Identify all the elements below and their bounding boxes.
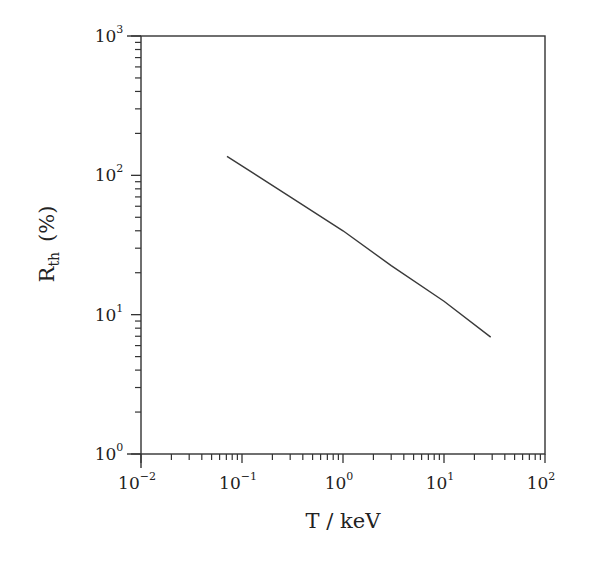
x-tick-label: 10−1 [219,470,257,493]
plot-frame [141,36,545,454]
x-tick-label: 10−2 [118,470,156,493]
x-axis-title: T / keV [306,509,382,533]
y-axis-title-unit: (%) [35,206,59,242]
x-tick-label: 100 [325,470,354,493]
svg-text:Rth(%): Rth(%) [35,206,62,283]
y-axis-title: Rth(%) [35,206,62,283]
x-tick-label: 102 [527,470,556,493]
series-line [227,156,491,337]
axis-ticks [131,36,545,463]
data-series [227,156,491,337]
y-tick-label: 103 [95,23,124,46]
y-tick-label: 100 [95,441,124,464]
y-axis-title-main: R [35,265,59,282]
y-axis-title-sub: th [46,252,62,267]
tick-labels: 10−210−1100101102100101102103 [95,23,556,493]
y-tick-label: 102 [95,162,124,185]
x-tick-label: 101 [426,470,455,493]
chart-canvas: 10−210−1100101102100101102103 T / keV Rt… [0,0,589,564]
plot-axes [127,36,545,468]
y-tick-label: 101 [95,302,124,325]
